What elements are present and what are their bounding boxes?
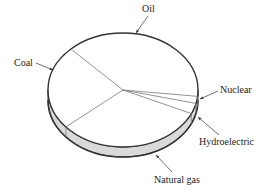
leader-hydroelectric (198, 117, 219, 135)
label-hydroelectric: Hydroelectric (199, 136, 255, 147)
label-nuclear: Nuclear (220, 84, 252, 95)
pie-chart-svg: OilCoalNuclearHydroelectricNatural gas (0, 0, 270, 194)
leader-natural-gas (156, 155, 172, 172)
pie-chart: OilCoalNuclearHydroelectricNatural gas (0, 0, 270, 194)
label-oil: Oil (142, 3, 155, 14)
arrowhead-oil (136, 30, 139, 33)
label-coal: Coal (14, 57, 33, 68)
label-natural-gas: Natural gas (154, 174, 200, 185)
